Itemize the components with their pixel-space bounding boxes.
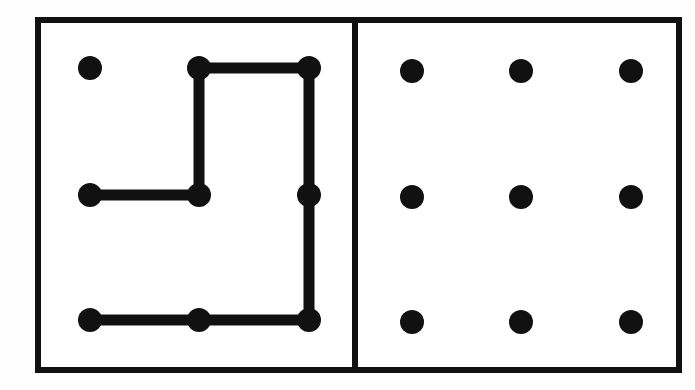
grid-dot[interactable] xyxy=(400,310,424,334)
grid-dot[interactable] xyxy=(619,310,643,334)
grid-dot[interactable] xyxy=(509,310,533,334)
grid-dot[interactable] xyxy=(509,185,533,209)
grid-dot[interactable] xyxy=(509,59,533,83)
grid-dot[interactable] xyxy=(187,56,211,80)
diagram-canvas xyxy=(0,0,695,390)
grid-dot[interactable] xyxy=(78,183,102,207)
dot-grid-diagram xyxy=(0,0,695,390)
grid-dot[interactable] xyxy=(619,59,643,83)
grid-dot[interactable] xyxy=(297,308,321,332)
grid-dot[interactable] xyxy=(187,308,211,332)
grid-dot[interactable] xyxy=(400,59,424,83)
grid-dot[interactable] xyxy=(297,183,321,207)
grid-dot[interactable] xyxy=(78,308,102,332)
grid-dot[interactable] xyxy=(78,56,102,80)
grid-dot[interactable] xyxy=(187,183,211,207)
grid-dot[interactable] xyxy=(400,185,424,209)
grid-dot[interactable] xyxy=(297,56,321,80)
grid-dot[interactable] xyxy=(619,185,643,209)
